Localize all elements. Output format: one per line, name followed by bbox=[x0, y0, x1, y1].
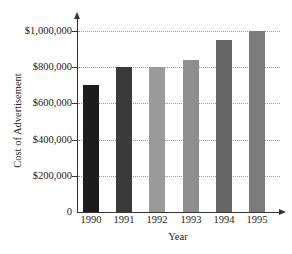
y-axis-arrow-icon bbox=[74, 12, 80, 19]
bar-1991 bbox=[116, 67, 132, 212]
y-axis-label: Cost of Advertisement bbox=[12, 66, 23, 176]
y-tick-label: $800,000 bbox=[33, 61, 72, 73]
bar-1993 bbox=[183, 60, 199, 212]
y-tick-label: $200,000 bbox=[33, 170, 72, 182]
bar-1995 bbox=[249, 31, 265, 212]
y-axis bbox=[77, 16, 78, 213]
x-axis bbox=[77, 212, 280, 213]
bar-1992 bbox=[149, 67, 165, 212]
x-tick-label: 1995 bbox=[237, 214, 277, 225]
x-axis-arrow-icon bbox=[279, 209, 286, 215]
y-tick-label: $600,000 bbox=[33, 97, 72, 109]
bar-1994 bbox=[216, 40, 232, 212]
y-tick-label: $1,000,000 bbox=[25, 25, 72, 37]
bar-1990 bbox=[83, 85, 99, 212]
x-axis-label: Year bbox=[158, 231, 198, 242]
bar-chart: 0$200,000$400,000$600,000$800,000$1,000,… bbox=[0, 0, 292, 254]
y-tick-label: $400,000 bbox=[33, 134, 72, 146]
